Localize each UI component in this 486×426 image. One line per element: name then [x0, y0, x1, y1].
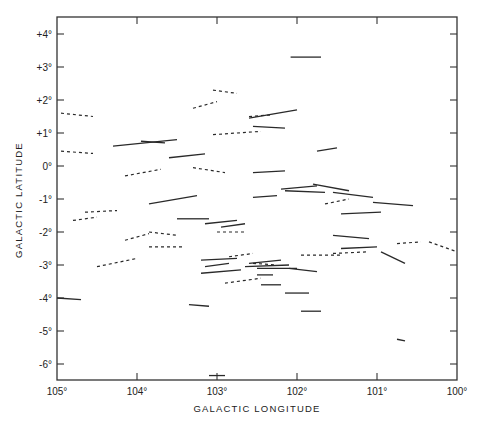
- y-tick-label: +1°: [37, 128, 52, 139]
- dashed-vector: [213, 90, 237, 93]
- solid-vector: [333, 192, 373, 197]
- solid-vector: [281, 186, 317, 189]
- solid-vector: [221, 224, 245, 227]
- y-tick-label: -6°: [39, 359, 52, 370]
- dashed-vector: [429, 242, 457, 252]
- solid-vector: [205, 220, 237, 223]
- y-axis-title: GALACTIC LATITUDE: [13, 142, 24, 258]
- dashed-vector: [193, 102, 217, 109]
- solid-vector: [373, 202, 413, 205]
- x-tick-label: 105°: [47, 386, 68, 397]
- solid-vector: [189, 305, 209, 307]
- y-tick-label: 0°: [42, 161, 52, 172]
- y-tick-label: +3°: [37, 62, 52, 73]
- y-tick-label: +4°: [37, 29, 52, 40]
- solid-vector: [253, 196, 277, 198]
- dashed-vector: [61, 113, 93, 116]
- dashed-vector: [225, 278, 261, 283]
- dashed-vector: [125, 169, 161, 176]
- x-axis-title: GALACTIC LONGITUDE: [193, 403, 320, 414]
- solid-vector: [245, 265, 289, 267]
- solid-vector: [57, 298, 81, 300]
- solid-vector: [397, 339, 405, 341]
- solid-vector: [149, 196, 197, 204]
- solid-vector: [381, 252, 405, 264]
- solid-vector: [285, 191, 325, 193]
- dashed-vector: [333, 252, 369, 254]
- x-tick-label: 100°: [447, 386, 468, 397]
- solid-vector: [317, 148, 337, 151]
- solid-vector: [169, 154, 205, 158]
- chart-canvas: 105°104°103°102°101°100° +4°+3°+2°+1°0°-…: [0, 0, 486, 426]
- solid-vector: [333, 235, 369, 238]
- y-tick-label: +2°: [37, 95, 52, 106]
- y-tick-label: -3°: [39, 260, 52, 271]
- dashed-vector: [149, 232, 177, 235]
- solid-vector: [253, 171, 285, 173]
- dashed-vector: [85, 211, 117, 213]
- dashed-vector: [61, 151, 93, 153]
- x-tick-label: 101°: [367, 386, 388, 397]
- y-tick-label: -4°: [39, 293, 52, 304]
- y-tick-label: -1°: [39, 194, 52, 205]
- y-axis-ticks: +4°+3°+2°+1°0°-1°-2°-3°-4°-5°-6°: [37, 29, 457, 370]
- y-tick-label: -2°: [39, 227, 52, 238]
- solid-vector: [341, 212, 381, 214]
- dashed-vector: [193, 168, 225, 173]
- dashed-vector: [397, 242, 421, 244]
- y-tick-label: -5°: [39, 326, 52, 337]
- plot-frame: [57, 17, 457, 380]
- solid-vector: [341, 247, 377, 249]
- dashed-vector: [229, 253, 253, 256]
- dashed-vector: [253, 263, 277, 265]
- solid-vector: [201, 270, 241, 273]
- solid-vector: [249, 110, 297, 118]
- dashed-vector: [325, 199, 349, 204]
- x-tick-label: 103°: [207, 386, 228, 397]
- solid-vector: [113, 140, 177, 147]
- solid-vector: [289, 268, 317, 271]
- dashed-vector: [213, 131, 261, 134]
- dashed-vector: [97, 258, 137, 266]
- polarization-vectors: [57, 57, 457, 375]
- dashed-vector: [125, 234, 149, 241]
- x-axis-ticks: 105°104°103°102°101°100°: [47, 17, 468, 397]
- solid-vector: [205, 263, 229, 266]
- solid-vector: [253, 126, 285, 128]
- dashed-vector: [73, 217, 97, 220]
- x-tick-label: 102°: [287, 386, 308, 397]
- solid-vector: [201, 258, 237, 260]
- solid-vector: [313, 184, 349, 191]
- x-tick-label: 104°: [127, 386, 148, 397]
